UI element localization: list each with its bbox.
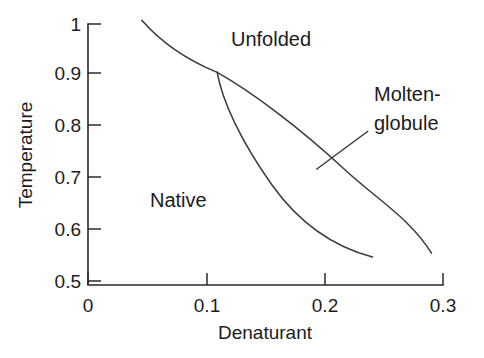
y-tick-label-0-8: 0.8: [55, 115, 81, 136]
phase-diagram-plot: 1 0.9 0.8 0.7 0.6 0.5 0 0.1 0.2 0.3 Dena…: [0, 0, 484, 358]
y-axis-ticks: [88, 24, 101, 281]
y-tick-label-0-5: 0.5: [55, 271, 81, 292]
x-axis-ticks: [88, 273, 443, 285]
axis-spines: [88, 24, 443, 285]
y-tick-label-0-9: 0.9: [55, 63, 81, 84]
x-axis-tick-labels: 0 0.1 0.2 0.3: [83, 295, 457, 316]
region-label-native: Native: [150, 189, 207, 211]
x-tick-label-0-2: 0.2: [312, 295, 338, 316]
y-tick-label-0-7: 0.7: [55, 167, 81, 188]
region-label-molten-globule-line1: Molten-: [374, 83, 441, 105]
y-axis-tick-labels: 1 0.9 0.8 0.7 0.6 0.5: [55, 14, 81, 292]
region-label-molten-globule-line2: globule: [374, 112, 439, 134]
y-tick-label-0-6: 0.6: [55, 219, 81, 240]
x-tick-label-0: 0: [83, 295, 94, 316]
curve-native-molten-globule-boundary: [217, 72, 372, 257]
x-axis-title: Denaturant: [218, 322, 313, 343]
x-tick-label-0-1: 0.1: [194, 295, 220, 316]
phase-diagram-figure: 1 0.9 0.8 0.7 0.6 0.5 0 0.1 0.2 0.3 Dena…: [0, 0, 484, 358]
x-tick-label-0-3: 0.3: [430, 295, 456, 316]
y-axis-title: Temperature: [15, 102, 36, 209]
region-label-unfolded: Unfolded: [231, 28, 311, 50]
curve-native-unfolded-boundary: [142, 20, 217, 72]
y-tick-label-1: 1: [70, 14, 81, 35]
